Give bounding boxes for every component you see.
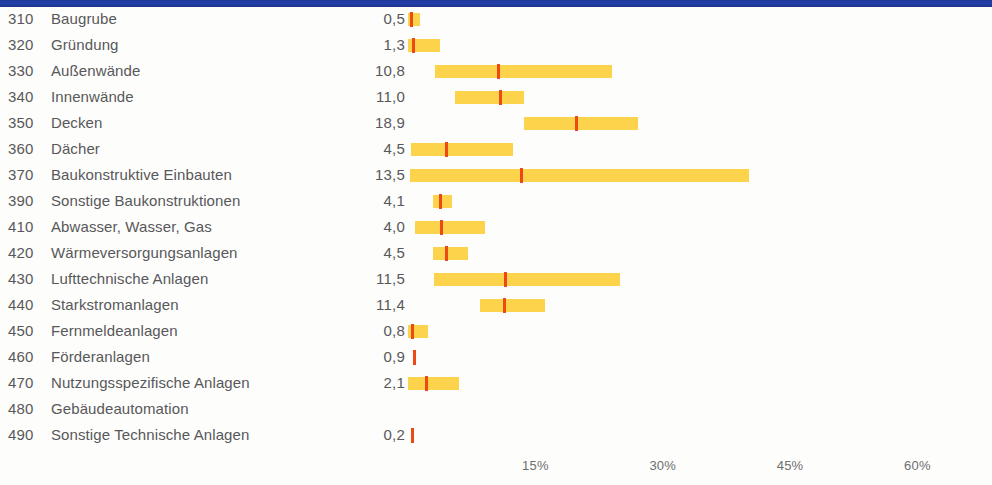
table-row: 480Gebäudeautomation xyxy=(0,397,992,423)
row-label: Fernmeldeanlagen xyxy=(51,322,178,339)
row-label: Gebäudeautomation xyxy=(51,400,189,417)
row-value: 1,3 xyxy=(305,36,405,53)
chart-root: 310Baugrube0,5320Gründung1,3330Außenwänd… xyxy=(0,0,992,485)
table-row: 370Baukonstruktive Einbauten13,5 xyxy=(0,163,992,189)
row-code: 330 xyxy=(8,62,48,79)
row-value: 2,1 xyxy=(305,374,405,391)
row-value: 0,9 xyxy=(305,348,405,365)
row-code: 420 xyxy=(8,244,48,261)
row-code: 350 xyxy=(8,114,48,131)
x-axis-tick-label: 15% xyxy=(522,458,549,473)
row-label: Gründung xyxy=(51,36,119,53)
row-code: 440 xyxy=(8,296,48,313)
table-row: 470Nutzungsspezifische Anlagen2,1 xyxy=(0,371,992,397)
row-code: 470 xyxy=(8,374,48,391)
table-row: 430Lufttechnische Anlagen11,5 xyxy=(0,267,992,293)
row-label: Decken xyxy=(51,114,102,131)
row-label: Lufttechnische Anlagen xyxy=(51,270,208,287)
row-value: 4,1 xyxy=(305,192,405,209)
row-code: 450 xyxy=(8,322,48,339)
row-value: 11,5 xyxy=(305,270,405,287)
row-code: 410 xyxy=(8,218,48,235)
row-code: 460 xyxy=(8,348,48,365)
row-label: Baugrube xyxy=(51,10,117,27)
table-row: 320Gründung1,3 xyxy=(0,33,992,59)
x-axis-tick-label: 45% xyxy=(777,458,804,473)
table-row: 460Förderanlagen0,9 xyxy=(0,345,992,371)
row-value: 10,8 xyxy=(305,62,405,79)
row-label: Sonstige Technische Anlagen xyxy=(51,426,249,443)
row-label: Sonstige Baukonstruktionen xyxy=(51,192,240,209)
row-label: Innenwände xyxy=(51,88,134,105)
row-code: 310 xyxy=(8,10,48,27)
row-value: 0,2 xyxy=(305,426,405,443)
x-axis: 15%30%45%60% xyxy=(0,458,992,480)
header-band-fill xyxy=(0,0,992,7)
table-row: 490Sonstige Technische Anlagen0,2 xyxy=(0,423,992,449)
row-label: Außenwände xyxy=(51,62,140,79)
row-label: Wärmeversorgungsanlagen xyxy=(51,244,238,261)
row-code: 320 xyxy=(8,36,48,53)
row-value: 11,0 xyxy=(305,88,405,105)
table-row: 340Innenwände11,0 xyxy=(0,85,992,111)
row-value: 18,9 xyxy=(305,114,405,131)
row-value: 4,0 xyxy=(305,218,405,235)
row-label: Dächer xyxy=(51,140,100,157)
table-row: 450Fernmeldeanlagen0,8 xyxy=(0,319,992,345)
row-label: Förderanlagen xyxy=(51,348,150,365)
header-band xyxy=(0,0,992,7)
row-code: 340 xyxy=(8,88,48,105)
row-label: Abwasser, Wasser, Gas xyxy=(51,218,212,235)
table-row: 420Wärmeversorgungsanlagen4,5 xyxy=(0,241,992,267)
row-code: 360 xyxy=(8,140,48,157)
table-row: 360Dächer4,5 xyxy=(0,137,992,163)
row-code: 490 xyxy=(8,426,48,443)
row-label: Nutzungsspezifische Anlagen xyxy=(51,374,250,391)
row-code: 390 xyxy=(8,192,48,209)
row-value: 13,5 xyxy=(305,166,405,183)
row-value: 0,8 xyxy=(305,322,405,339)
row-label: Baukonstruktive Einbauten xyxy=(51,166,232,183)
x-axis-tick-label: 30% xyxy=(649,458,676,473)
row-value: 0,5 xyxy=(305,10,405,27)
table-row: 350Decken18,9 xyxy=(0,111,992,137)
row-code: 430 xyxy=(8,270,48,287)
row-code: 480 xyxy=(8,400,48,417)
row-value: 4,5 xyxy=(305,244,405,261)
row-value: 11,4 xyxy=(305,296,405,313)
table-row: 440Starkstromanlagen11,4 xyxy=(0,293,992,319)
row-value: 4,5 xyxy=(305,140,405,157)
row-label: Starkstromanlagen xyxy=(51,296,179,313)
table-row: 310Baugrube0,5 xyxy=(0,7,992,33)
row-code: 370 xyxy=(8,166,48,183)
chart-rows: 310Baugrube0,5320Gründung1,3330Außenwänd… xyxy=(0,7,992,449)
x-axis-tick-label: 60% xyxy=(904,458,931,473)
table-row: 410Abwasser, Wasser, Gas4,0 xyxy=(0,215,992,241)
table-row: 330Außenwände10,8 xyxy=(0,59,992,85)
table-row: 390Sonstige Baukonstruktionen4,1 xyxy=(0,189,992,215)
